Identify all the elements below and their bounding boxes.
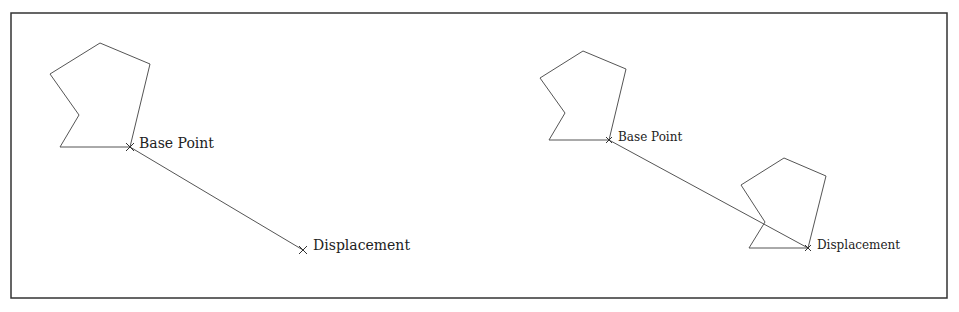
displacement-label-right: Displacement <box>817 238 900 252</box>
original-polygon-right <box>540 51 626 140</box>
move-diagram: Base Point Displacement Base Point Displ… <box>0 0 959 312</box>
displacement-vector-right <box>609 140 808 248</box>
original-polygon-left <box>50 43 150 147</box>
diagram-frame <box>11 13 947 298</box>
displacement-vector-left <box>130 147 303 250</box>
displacement-marker-left-icon <box>299 246 307 254</box>
displacement-label-left: Displacement <box>313 237 410 253</box>
base-point-label-right: Base Point <box>618 130 682 144</box>
base-point-label-left: Base Point <box>139 135 214 151</box>
